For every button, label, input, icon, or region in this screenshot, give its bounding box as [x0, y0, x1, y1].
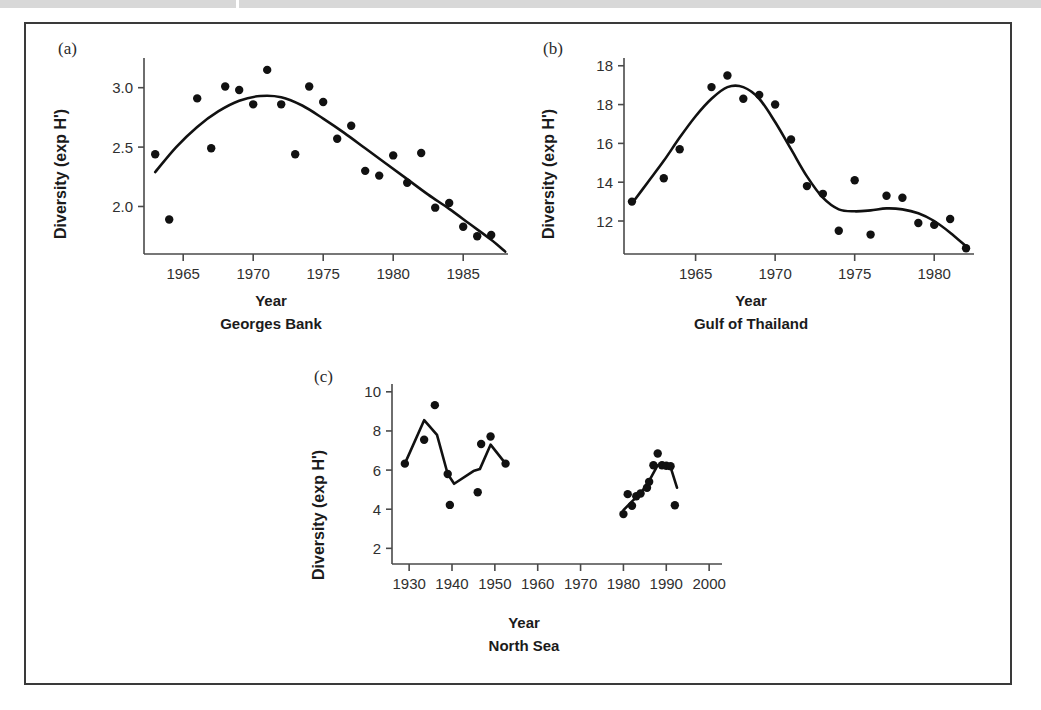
- svg-text:1980: 1980: [377, 265, 410, 282]
- svg-text:1940: 1940: [435, 575, 468, 592]
- svg-text:2.5: 2.5: [112, 139, 133, 156]
- svg-text:14: 14: [596, 174, 613, 191]
- svg-text:1960: 1960: [521, 575, 554, 592]
- svg-text:2000: 2000: [692, 575, 725, 592]
- svg-text:1975: 1975: [838, 265, 871, 282]
- panel-c-caption: North Sea: [374, 637, 674, 654]
- svg-text:1975: 1975: [307, 265, 340, 282]
- svg-text:1965: 1965: [679, 265, 712, 282]
- panel-c: (c) Diversity (exp H') 10864219301940195…: [284, 352, 784, 682]
- svg-text:1950: 1950: [478, 575, 511, 592]
- svg-text:8: 8: [373, 422, 381, 439]
- svg-text:18: 18: [596, 57, 613, 74]
- svg-text:6: 6: [373, 462, 381, 479]
- svg-text:1990: 1990: [650, 575, 683, 592]
- svg-text:1980: 1980: [607, 575, 640, 592]
- panel-c-plot: 10864219301940195019601970198019902000: [314, 364, 734, 614]
- panel-b-caption: Gulf of Thailand: [586, 315, 916, 332]
- svg-text:18: 18: [596, 96, 613, 113]
- panel-a: (a) Diversity (exp H') 3.02.52.019651970…: [26, 24, 526, 344]
- panel-a-x-axis-title: Year: [106, 292, 436, 309]
- svg-text:1930: 1930: [392, 575, 425, 592]
- svg-text:2.0: 2.0: [112, 198, 133, 215]
- svg-text:2: 2: [373, 540, 381, 557]
- svg-text:1970: 1970: [237, 265, 270, 282]
- page-top-strip: [0, 0, 1041, 8]
- svg-text:1980: 1980: [918, 265, 951, 282]
- svg-text:3.0: 3.0: [112, 79, 133, 96]
- panel-a-plot: 3.02.52.019651970197519801985: [56, 36, 526, 296]
- svg-text:1965: 1965: [167, 265, 200, 282]
- figure-frame: (a) Diversity (exp H') 3.02.52.019651970…: [24, 22, 1012, 685]
- panel-c-x-axis-title: Year: [374, 614, 674, 631]
- panel-b: (b) Diversity (exp H') 18181614121965197…: [516, 24, 1014, 344]
- svg-text:12: 12: [596, 213, 613, 230]
- svg-text:10: 10: [364, 383, 381, 400]
- panel-b-x-axis-title: Year: [586, 292, 916, 309]
- svg-text:1970: 1970: [564, 575, 597, 592]
- panel-b-plot: 18181614121965197019751980: [544, 36, 999, 296]
- svg-text:16: 16: [596, 135, 613, 152]
- panel-a-caption: Georges Bank: [106, 315, 436, 332]
- page-top-strip-seam: [236, 0, 239, 8]
- svg-text:1970: 1970: [758, 265, 791, 282]
- figure-root: (a) Diversity (exp H') 3.02.52.019651970…: [0, 0, 1041, 710]
- svg-text:1985: 1985: [447, 265, 480, 282]
- svg-text:4: 4: [373, 501, 381, 518]
